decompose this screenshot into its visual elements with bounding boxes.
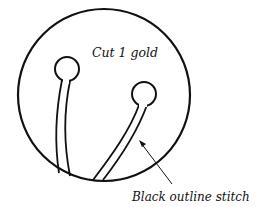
stitch-callout-label: Black outline stitch: [131, 190, 250, 204]
right-stem-outer-line: [93, 105, 139, 180]
pattern-diagram: Cut 1 gold Black outline stitch: [0, 0, 268, 207]
cut-instruction-label: Cut 1 gold: [92, 45, 158, 60]
outer-circle-outline: [18, 9, 190, 181]
left-knob: [55, 57, 79, 81]
left-stem-outer-line: [56, 80, 62, 173]
arrowhead-icon: [139, 140, 146, 147]
right-antenna: [93, 82, 156, 180]
left-antenna: [55, 57, 79, 176]
stitch-callout-arrow: [139, 140, 172, 184]
left-stem-inner-line: [65, 81, 70, 176]
